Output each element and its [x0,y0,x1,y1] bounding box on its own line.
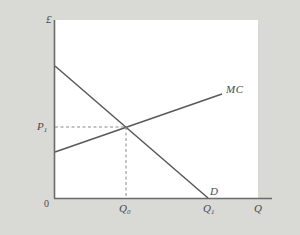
chart-canvas [0,0,300,235]
plot-area-background [54,20,258,198]
economics-supply-demand-figure: £ Q 0 P1 Q0 Q1 MC D [0,0,300,235]
